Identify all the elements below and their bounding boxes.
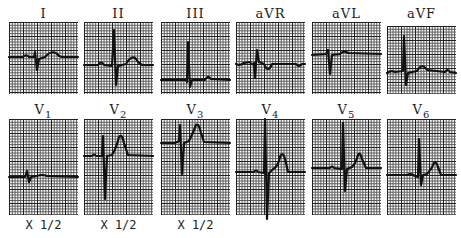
ecg-grid	[387, 119, 456, 215]
lead-label: II	[84, 6, 153, 21]
lead-aVR: aVR	[236, 2, 305, 96]
lead-label: aVR	[236, 6, 305, 21]
lead-label: V6	[387, 102, 456, 120]
ecg-grid	[312, 22, 381, 94]
ecg-grid	[161, 22, 230, 94]
scale-note: X 1/2	[9, 218, 78, 232]
ecg-trace	[387, 26, 456, 94]
ecg-trace	[9, 119, 78, 215]
lead-label: aVF	[387, 6, 456, 21]
ecg-grid	[312, 119, 381, 215]
ecg-grid	[9, 119, 78, 215]
scale-note: X 1/2	[84, 218, 153, 232]
scale-note: X 1/2	[161, 218, 230, 232]
lead-V2: V2 X 1/2	[84, 100, 153, 238]
lead-label: aVL	[312, 6, 381, 21]
ecg-grid	[236, 22, 305, 94]
lead-label: V5	[312, 102, 381, 120]
ecg-grid	[387, 26, 456, 94]
lead-label: I	[9, 6, 78, 21]
lead-label: V2	[84, 102, 153, 120]
ecg-trace	[387, 119, 456, 215]
lead-label: III	[161, 6, 230, 21]
ecg-grid	[84, 22, 153, 94]
ecg-trace	[9, 22, 78, 94]
ecg-grid	[9, 22, 78, 94]
ecg-grid	[161, 119, 230, 215]
lead-label: V4	[236, 102, 305, 120]
lead-V6: V6	[387, 100, 456, 238]
ecg-grid	[236, 119, 305, 215]
lead-label: V3	[161, 102, 230, 120]
ecg-trace	[84, 22, 153, 94]
lead-V4: V4	[236, 100, 305, 238]
ecg-trace	[161, 22, 230, 94]
lead-III: III	[161, 2, 230, 96]
lead-V1: V1 X 1/2	[9, 100, 78, 238]
ecg-trace	[161, 119, 230, 215]
lead-aVL: aVL	[312, 2, 381, 96]
lead-label: V1	[9, 102, 78, 120]
ecg-trace	[236, 22, 305, 94]
ecg-trace	[84, 119, 153, 215]
lead-V3: V3 X 1/2	[161, 100, 230, 238]
ecg-grid	[84, 119, 153, 215]
ecg-trace	[236, 119, 305, 215]
lead-II: II	[84, 2, 153, 96]
lead-V5: V5	[312, 100, 381, 238]
lead-aVF: aVF	[387, 2, 456, 96]
lead-I: I	[9, 2, 78, 96]
ecg-trace	[312, 22, 381, 94]
ecg-trace	[312, 119, 381, 215]
